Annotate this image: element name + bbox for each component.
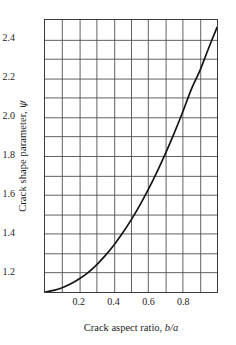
x-tick-label: 0.8 [177,296,190,307]
x-tick-label: 0.2 [73,296,86,307]
plot-area [44,19,218,293]
x-axis-title: Crack aspect ratio, b/a [44,322,218,333]
x-axis-title-symbol: b/a [165,322,178,333]
figure: Crack shape parameter, ψ 1.21.41.61.82.0… [0,0,236,345]
data-curve [45,20,217,292]
x-tick-label: 0.4 [107,296,120,307]
x-tick-label: 0.6 [142,296,155,307]
x-axis-title-text: Crack aspect ratio, [84,322,165,333]
